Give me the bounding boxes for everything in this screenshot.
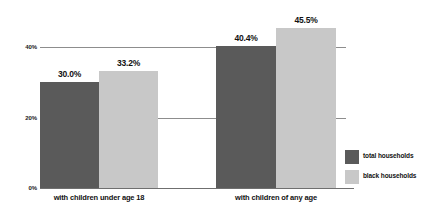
legend-swatch-total-households	[345, 150, 359, 164]
legend-item-total-households: total households	[345, 148, 419, 165]
right-tick-40	[337, 47, 346, 48]
category-label-group1: with children under age 18	[40, 194, 158, 202]
bar-value-group1-black: 33.2%	[99, 59, 158, 68]
y-tick-label-0: 0%	[3, 185, 37, 191]
y-tick-label-20: 20%	[3, 115, 37, 121]
bar-value-group2-black: 45.5%	[276, 16, 336, 25]
axis-baseline	[40, 188, 354, 189]
bar-group2-black-households	[276, 28, 336, 188]
bar-group1-total-households	[40, 82, 99, 188]
legend-swatch-black-households	[345, 170, 359, 184]
bar-value-group1-total: 30.0%	[40, 70, 99, 79]
y-axis: 40% 20% 0%	[0, 0, 37, 212]
legend-label-black-households: black households	[363, 173, 416, 180]
bar-value-group2-total: 40.4%	[216, 34, 276, 43]
y-tick-label-40: 40%	[3, 44, 37, 50]
bar-group1-black-households	[99, 71, 158, 188]
bar-group2-total-households	[216, 46, 276, 188]
legend-item-black-households: black households	[345, 168, 419, 185]
bar-chart: 40% 20% 0% 30.0% 33.2% with children und…	[0, 0, 421, 212]
category-label-group2: with children of any age	[216, 194, 336, 202]
legend-label-total-households: total households	[363, 153, 413, 160]
chart-legend: total households black households	[345, 148, 419, 188]
right-tick-20	[337, 118, 346, 119]
